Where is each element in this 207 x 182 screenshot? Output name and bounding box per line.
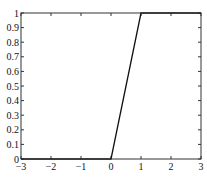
y-tick-label: 1 (14, 8, 19, 19)
ticks (21, 13, 201, 159)
y-tick-label: 0.2 (7, 124, 20, 135)
axes-frame (21, 13, 201, 159)
x-tick-label: 1 (139, 161, 144, 172)
y-tick-label: 0.7 (7, 51, 20, 62)
y-tick-label: 0.9 (7, 22, 20, 33)
y-tick-label: 0.3 (7, 110, 20, 121)
x-tick-label: 2 (169, 161, 174, 172)
y-tick-label: 0.8 (7, 37, 20, 48)
y-tick-label: 0.6 (7, 66, 20, 77)
chart: −3−2−1012300.10.20.30.40.50.60.70.80.91 (0, 0, 207, 182)
x-tick-label: 3 (199, 161, 204, 172)
y-tick-label: 0.4 (7, 95, 20, 106)
tick-labels: −3−2−1012300.10.20.30.40.50.60.70.80.91 (7, 8, 204, 173)
y-tick-label: 0.5 (7, 81, 20, 92)
x-tick-label: 0 (109, 161, 114, 172)
y-tick-label: 0 (14, 154, 19, 165)
y-tick-label: 0.1 (7, 139, 20, 150)
x-tick-label: −1 (76, 161, 87, 172)
x-tick-label: −2 (46, 161, 57, 172)
series-line (21, 13, 201, 159)
